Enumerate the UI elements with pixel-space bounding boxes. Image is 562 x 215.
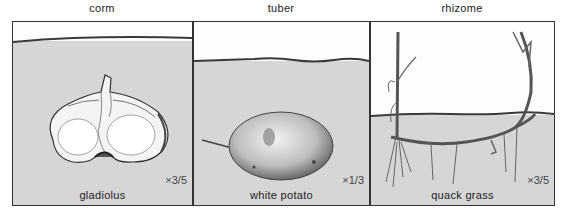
panel-title-rhizome: rhizome xyxy=(412,2,512,14)
scale-label: ×3/5 xyxy=(527,174,549,186)
panel-tuber: ×1/3 white potato xyxy=(194,22,369,205)
panel-title-tuber: tuber xyxy=(231,2,331,14)
panel-caption-quack-grass: quack grass xyxy=(371,189,554,201)
panel-title-corm: corm xyxy=(52,2,152,14)
panel-caption-white-potato: white potato xyxy=(194,189,369,201)
scale-label: ×3/5 xyxy=(165,174,187,186)
scale-label: ×1/3 xyxy=(342,174,364,186)
figure-frame: ×3/5 gladiolus ×1/3 white potato xyxy=(12,21,555,206)
panel-corm: ×3/5 gladiolus xyxy=(13,22,192,205)
panel-caption-gladiolus: gladiolus xyxy=(13,189,192,201)
panel-rhizome: ×3/5 quack grass xyxy=(371,22,554,205)
